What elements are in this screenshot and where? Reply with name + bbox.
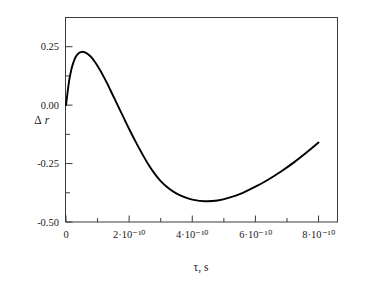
y-tick-label-4: 0.00 [41,100,59,111]
chart-figure: 02·10⁻¹⁰4·10⁻¹⁰6·10⁻¹⁰8·10⁻¹⁰ -0.50-0.25… [0,0,368,285]
y-tick-label-0: -0.50 [37,217,59,228]
x-tick-label-2: 2·10⁻¹⁰ [113,229,146,240]
x-tick-label-6: 6·10⁻¹⁰ [239,229,272,240]
y-tick-label-6: 0.25 [41,41,59,52]
delta-r-vs-tau-line-chart: 02·10⁻¹⁰4·10⁻¹⁰6·10⁻¹⁰8·10⁻¹⁰ -0.50-0.25… [0,0,368,285]
y-axis-title-delta-symbol: Δ [34,114,41,126]
x-axis-title: τ, s [194,261,209,274]
x-tick-label-8: 8·10⁻¹⁰ [302,229,335,240]
y-axis-title-variable: r [45,114,50,126]
x-tick-label-4: 4·10⁻¹⁰ [176,229,209,240]
x-tick-label-0: 0 [63,229,68,240]
y-tick-label-2: -0.25 [37,158,59,169]
